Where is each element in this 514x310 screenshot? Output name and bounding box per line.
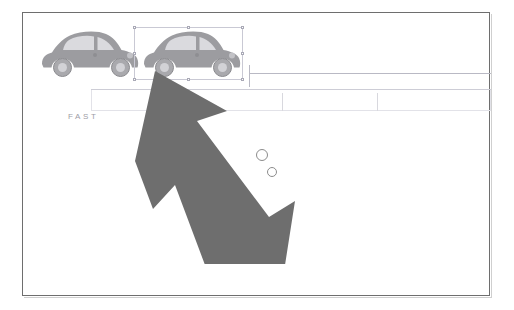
selection-handle-w[interactable]	[133, 52, 136, 55]
band-tick-3	[377, 93, 378, 111]
selection-handle-n[interactable]	[187, 26, 190, 29]
fast-label: FAST	[68, 112, 98, 121]
selection-handle-e[interactable]	[241, 52, 244, 55]
pointer-arrow[interactable]	[109, 69, 299, 264]
screenshot-canvas: FAST	[0, 0, 514, 310]
car-door-handle	[93, 53, 97, 57]
wheel-rear-hub-icon	[58, 63, 67, 72]
selection-handle-nw[interactable]	[133, 26, 136, 29]
selection-handle-ne[interactable]	[241, 26, 244, 29]
pointer-arrow-shape	[135, 71, 295, 264]
page-frame: FAST	[22, 12, 490, 296]
